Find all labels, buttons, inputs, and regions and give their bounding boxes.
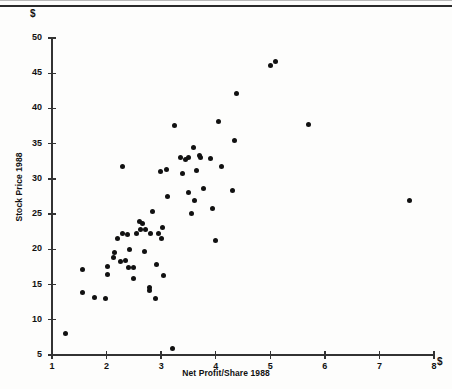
scatter-point — [111, 255, 116, 260]
axes-svg — [0, 0, 452, 389]
scatter-plot-figure: $ $ Stock Price 1988 Net Profit/Share 19… — [0, 0, 452, 389]
scatter-point — [127, 247, 132, 252]
y-tick-label: 45 — [20, 67, 42, 77]
y-tick-label: 35 — [20, 138, 42, 148]
y-tick-label: 25 — [20, 208, 42, 218]
x-tick-label: 5 — [260, 361, 280, 371]
scatter-point — [201, 186, 206, 191]
scatter-point — [208, 156, 213, 161]
x-tick-label: 4 — [206, 361, 226, 371]
y-tick-label: 10 — [20, 314, 42, 324]
scatter-point — [138, 227, 143, 232]
scatter-point — [80, 267, 85, 272]
scatter-point — [178, 155, 183, 160]
scatter-point — [112, 250, 117, 255]
scatter-point — [159, 236, 164, 241]
scatter-point — [92, 295, 97, 300]
x-tick-label: 2 — [97, 361, 117, 371]
scatter-point — [186, 155, 191, 160]
x-tick-label: 1 — [42, 361, 62, 371]
y-tick-label: 15 — [20, 279, 42, 289]
scatter-point — [219, 164, 224, 169]
scatter-point — [189, 211, 194, 216]
scatter-point — [118, 259, 123, 264]
x-tick-label: 8 — [424, 361, 444, 371]
x-tick-label: 6 — [315, 361, 335, 371]
scatter-point — [164, 167, 169, 172]
x-tick-label: 3 — [151, 361, 171, 371]
scatter-point — [80, 290, 85, 295]
y-tick-label: 5 — [20, 349, 42, 359]
scatter-point — [125, 232, 130, 237]
scatter-point — [268, 63, 273, 68]
scatter-point — [115, 236, 120, 241]
scatter-point — [216, 119, 221, 124]
scatter-point — [160, 225, 165, 230]
y-tick-label: 20 — [20, 243, 42, 253]
x-tick-label: 7 — [369, 361, 389, 371]
y-tick-label: 40 — [20, 102, 42, 112]
scatter-point — [407, 198, 412, 203]
y-tick-label: 50 — [20, 32, 42, 42]
scatter-point — [213, 238, 218, 243]
scatter-point — [230, 188, 235, 193]
scatter-point — [156, 231, 161, 236]
scatter-point — [158, 169, 163, 174]
scatter-point — [170, 346, 175, 351]
y-tick-label: 30 — [20, 173, 42, 183]
